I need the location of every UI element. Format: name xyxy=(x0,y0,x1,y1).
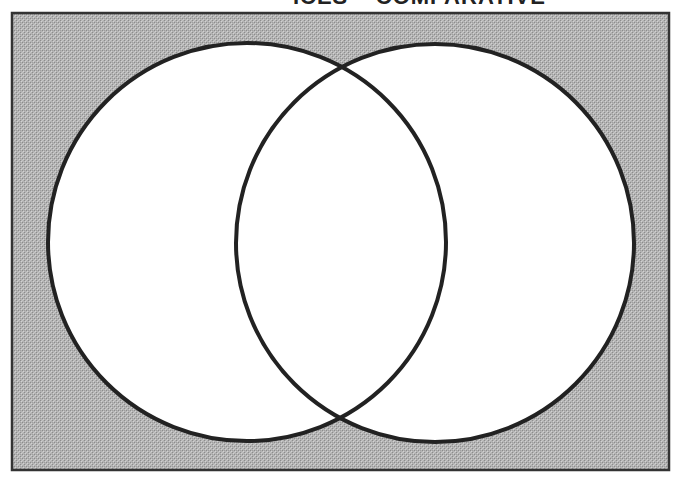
venn-diagram xyxy=(0,0,679,482)
right-circle-fill xyxy=(236,44,634,442)
